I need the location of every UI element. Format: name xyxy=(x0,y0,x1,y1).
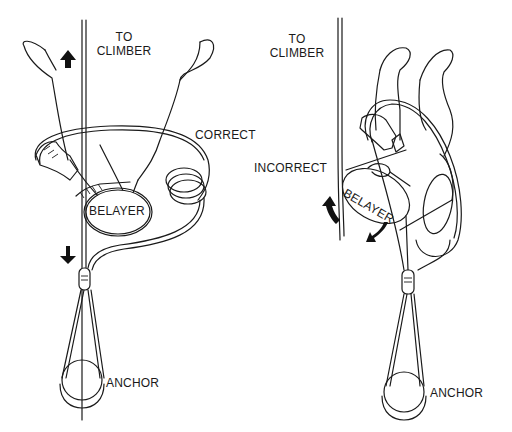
up-arrow-icon xyxy=(60,50,76,68)
belayer-hand xyxy=(36,142,78,180)
rotate-left-arrow-icon xyxy=(322,196,340,224)
belay-diagram: TO CLIMBER CORRECT BELAYER ANCHOR TO CLI… xyxy=(0,0,512,432)
anchor-circle-incorrect xyxy=(384,372,424,412)
illustration xyxy=(0,0,512,432)
belayer-label-correct: BELAYER xyxy=(89,204,145,218)
to-climber-label-incorrect: TO CLIMBER xyxy=(262,32,332,60)
rope-small-loop xyxy=(419,172,457,236)
right-leg xyxy=(138,40,214,180)
to-climber-line2: CLIMBER xyxy=(262,46,332,60)
down-arrow-icon xyxy=(60,246,76,264)
carabiner xyxy=(79,268,90,290)
right-leg-incorrect xyxy=(420,50,453,156)
anchor-label-incorrect: ANCHOR xyxy=(430,386,483,400)
status-label-incorrect: INCORRECT xyxy=(254,161,327,175)
rotate-right-arrow-icon xyxy=(366,222,388,242)
climber-rope-right-panel xyxy=(338,18,340,240)
left-leg-incorrect xyxy=(380,48,410,140)
correct-panel-drawing xyxy=(23,20,214,420)
status-label-correct: CORRECT xyxy=(195,128,256,142)
to-climber-line1: TO xyxy=(94,30,154,44)
to-climber-line1: TO xyxy=(262,32,332,46)
to-climber-line2: CLIMBER xyxy=(94,44,154,58)
anchor-label-correct: ANCHOR xyxy=(106,376,159,390)
to-climber-label-correct: TO CLIMBER xyxy=(94,30,154,58)
sling-right xyxy=(88,290,100,378)
sling-left xyxy=(62,290,81,378)
